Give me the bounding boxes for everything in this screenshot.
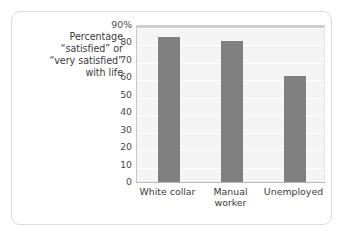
x-axis-line bbox=[136, 182, 325, 183]
gridline bbox=[137, 28, 324, 29]
bar bbox=[221, 41, 243, 182]
x-axis-tick-label: Unemployed bbox=[257, 186, 331, 197]
y-axis-tick-label: 70 bbox=[92, 55, 132, 64]
plot-area bbox=[136, 25, 325, 182]
y-axis-tick-label: 20 bbox=[92, 143, 132, 152]
x-axis-tick-label-line: Unemployed bbox=[257, 186, 331, 197]
chart-card: Percentage “satisfied” or “very satisfie… bbox=[11, 11, 332, 225]
y-axis-tick-label: 30 bbox=[92, 125, 132, 134]
bar-chart: 90%80706050403020100White collarManualwo… bbox=[136, 25, 325, 196]
y-axis-tick-label: 10 bbox=[92, 160, 132, 169]
y-axis-tick-label: 40 bbox=[92, 108, 132, 117]
y-axis-tick-label: 0 bbox=[92, 177, 132, 186]
y-axis-tick-label: 60 bbox=[92, 73, 132, 82]
x-axis-tick-label-line: worker bbox=[194, 197, 268, 208]
y-axis-tick-label: 50 bbox=[92, 90, 132, 99]
y-axis-tick-label: 90% bbox=[92, 20, 132, 29]
y-axis-tick-label: 80 bbox=[92, 38, 132, 47]
bar bbox=[158, 37, 180, 182]
bar bbox=[284, 76, 306, 182]
